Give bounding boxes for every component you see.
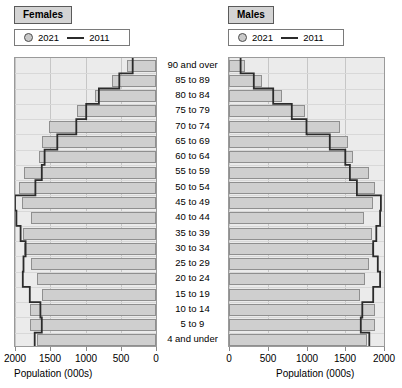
legend-item-2011-left: 2011	[67, 33, 109, 43]
age-label-25-to-29: 25 to 29	[157, 258, 228, 268]
age-label-90-and-over: 90 and over	[157, 60, 228, 70]
tick-mark	[268, 347, 269, 351]
line-marker-icon	[281, 37, 298, 39]
age-label-70-to-74: 70 to 74	[157, 121, 228, 131]
plot-area-males	[228, 57, 385, 347]
age-group-axis: 90 and over85 to 8980 to 8475 to 7970 to…	[157, 57, 228, 347]
ring-marker-icon	[24, 33, 33, 42]
series-2011-step-line	[15, 58, 156, 347]
axis-title-right: Population (000s)	[276, 368, 354, 379]
line-marker-icon	[67, 37, 84, 39]
age-label-10-to-14: 10 to 14	[157, 304, 228, 314]
age-label-75-to-79: 75 to 79	[157, 105, 228, 115]
tick-mark	[86, 347, 87, 351]
panel-title-males: Males	[228, 6, 274, 24]
age-label-4-and-under: 4 and under	[157, 334, 228, 344]
age-label-5-to-9: 5 to 9	[157, 319, 228, 329]
legend-females: 2021 2011	[14, 29, 130, 46]
tick-mark	[15, 347, 16, 351]
age-label-40-to-44: 40 to 44	[157, 212, 228, 222]
age-label-20-to-24: 20 to 24	[157, 273, 228, 283]
age-label-65-to-69: 65 to 69	[157, 136, 228, 146]
age-label-55-to-59: 55 to 59	[157, 166, 228, 176]
legend-label-2011-right: 2011	[303, 33, 323, 43]
age-label-30-to-34: 30 to 34	[157, 243, 228, 253]
population-pyramid-chart: Females 2021 2011 Males 2021 2011 90 and…	[0, 0, 402, 388]
tick-label-0: 0	[132, 353, 180, 364]
tick-mark	[307, 347, 308, 351]
legend-item-2021-left: 2021	[24, 33, 59, 43]
legend-item-2021-right: 2021	[238, 33, 273, 43]
age-label-45-to-49: 45 to 49	[157, 197, 228, 207]
age-label-85-to-89: 85 to 89	[157, 75, 228, 85]
legend-label-2021-right: 2021	[252, 33, 273, 43]
plot-area-females	[14, 57, 157, 347]
age-label-60-to-64: 60 to 64	[157, 151, 228, 161]
panel-title-females: Females	[14, 6, 72, 24]
age-label-35-to-39: 35 to 39	[157, 228, 228, 238]
tick-mark	[121, 347, 122, 351]
age-label-15-to-19: 15 to 19	[157, 289, 228, 299]
tick-mark	[345, 347, 346, 351]
axis-title-left: Population (000s)	[14, 368, 92, 379]
series-2011-step-line	[229, 58, 384, 347]
legend-item-2011-right: 2011	[281, 33, 323, 43]
tick-mark	[229, 347, 230, 351]
tick-mark	[50, 347, 51, 351]
tick-mark	[384, 347, 385, 351]
tick-mark	[156, 347, 157, 351]
age-label-50-to-54: 50 to 54	[157, 182, 228, 192]
tick-label-2000: 2000	[360, 353, 402, 364]
legend-males: 2021 2011	[228, 29, 344, 46]
age-label-80-to-84: 80 to 84	[157, 90, 228, 100]
legend-label-2011-left: 2011	[89, 33, 109, 43]
legend-label-2021-left: 2021	[38, 33, 59, 43]
gridline	[384, 58, 385, 346]
ring-marker-icon	[238, 33, 247, 42]
